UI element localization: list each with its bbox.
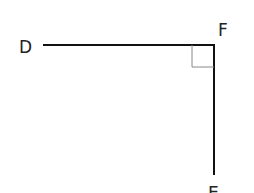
label-f: F bbox=[218, 20, 228, 40]
label-d: D bbox=[19, 37, 32, 57]
right-angle-diagram: D F E bbox=[0, 0, 254, 193]
label-e: E bbox=[208, 183, 219, 193]
right-angle-marker bbox=[192, 45, 214, 67]
